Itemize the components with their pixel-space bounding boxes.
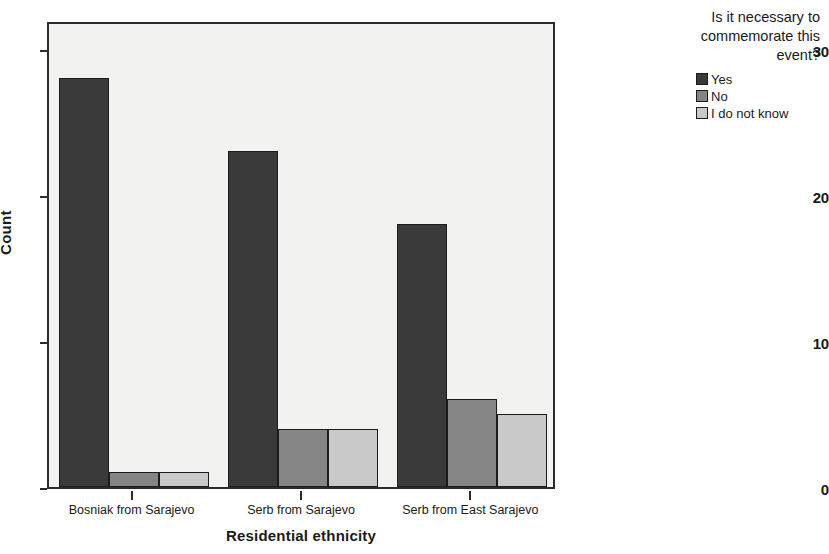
plot-area [47, 22, 555, 489]
legend-swatch [696, 73, 708, 85]
bar-chart-figure: Count Residential ethnicity Is it necess… [0, 0, 829, 554]
bar [59, 78, 109, 487]
y-tick-mark [40, 50, 47, 52]
legend-swatch [696, 107, 708, 119]
legend-item: No [696, 88, 728, 104]
y-axis-title: Count [0, 210, 14, 255]
y-tick-mark [40, 488, 47, 490]
legend-item: Yes [696, 71, 732, 87]
legend-item: I do not know [696, 105, 788, 121]
bar [278, 429, 328, 487]
bar [397, 224, 447, 487]
bar [447, 399, 497, 487]
y-tick-label: 20 [795, 189, 829, 206]
y-tick-label: 30 [795, 43, 829, 60]
legend-title-line: event? [597, 46, 820, 65]
y-tick-label: 0 [795, 481, 829, 498]
x-tick-mark [131, 491, 133, 500]
bar [228, 151, 278, 487]
legend-title: Is it necessary tocommemorate thisevent? [597, 8, 822, 65]
bar [328, 429, 378, 487]
legend: Is it necessary tocommemorate thisevent?… [597, 8, 822, 122]
legend-title-line: Is it necessary to [597, 8, 820, 27]
x-tick-label: Bosniak from Sarajevo [69, 503, 195, 517]
legend-swatch [696, 90, 708, 102]
bar [159, 472, 209, 487]
legend-title-line: commemorate this [597, 27, 820, 46]
x-tick-label: Serb from Sarajevo [247, 503, 355, 517]
x-axis-title: Residential ethnicity [47, 527, 555, 544]
y-tick-mark [40, 196, 47, 198]
legend-label: I do not know [711, 106, 788, 121]
bar [497, 414, 547, 487]
legend-label: Yes [711, 72, 732, 87]
legend-label: No [711, 89, 728, 104]
y-tick-mark [40, 342, 47, 344]
bar [109, 472, 159, 487]
x-tick-label: Serb from East Sarajevo [402, 503, 538, 517]
x-tick-mark [300, 491, 302, 500]
legend-items: YesNoI do not know [597, 71, 822, 122]
x-tick-mark [469, 491, 471, 500]
bars-container [49, 24, 553, 487]
y-tick-label: 10 [795, 335, 829, 352]
